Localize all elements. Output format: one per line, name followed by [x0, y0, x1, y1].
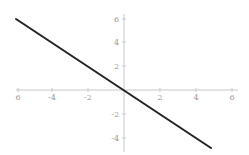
x-tick-label: 2 — [157, 93, 162, 102]
x-tick-label: 6 — [229, 93, 234, 102]
y-tick-label: 2 — [114, 62, 119, 71]
x-tick-label: -4 — [48, 93, 56, 102]
x-tick-label: -2 — [84, 93, 92, 102]
x-tick-label: 6 — [15, 93, 20, 102]
x-tick-label: 4 — [193, 93, 198, 102]
y-tick-label: 6 — [114, 15, 119, 24]
y-tick-label: 4 — [114, 38, 119, 47]
y-tick-label: -4 — [111, 134, 119, 143]
line-plot: 6 -4 -2 2 4 6 6 4 2 -2 -4 — [0, 0, 249, 155]
y-tick-label: -2 — [111, 110, 119, 119]
